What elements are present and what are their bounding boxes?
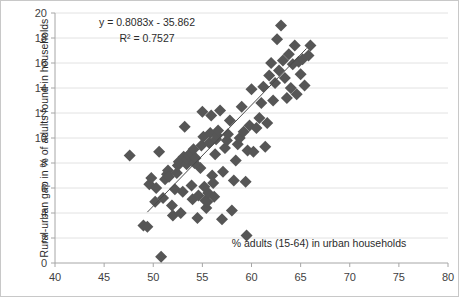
x-axis-tick-labels: 404550556065707580 bbox=[49, 271, 454, 283]
x-tick-label: 75 bbox=[393, 271, 405, 283]
x-tick-label: 60 bbox=[245, 271, 257, 283]
r-squared-label: R² = 0.7527 bbox=[119, 32, 174, 44]
x-axis-title: % adults (15-64) in urban households bbox=[232, 237, 407, 249]
y-tick-label: 0 bbox=[41, 257, 47, 269]
data-point-marker bbox=[209, 148, 221, 160]
x-tick-label: 55 bbox=[196, 271, 208, 283]
data-point-marker bbox=[191, 212, 203, 224]
data-points bbox=[124, 20, 317, 263]
data-point-marker bbox=[124, 150, 136, 162]
data-point-marker bbox=[271, 33, 283, 45]
data-point-marker bbox=[228, 175, 240, 187]
chart-canvas: 404550556065707580 02468101214161820 y =… bbox=[1, 1, 459, 297]
x-tick-label: 65 bbox=[295, 271, 307, 283]
data-point-marker bbox=[153, 146, 165, 158]
data-point-marker bbox=[217, 166, 229, 178]
data-point-marker bbox=[246, 83, 258, 95]
x-tick-label: 80 bbox=[442, 271, 454, 283]
data-point-marker bbox=[230, 155, 242, 167]
axis-ticks bbox=[51, 13, 448, 267]
data-point-marker bbox=[259, 141, 271, 153]
regression-equation-label: y = 0.8083x - 35.862 bbox=[99, 16, 195, 28]
data-point-marker bbox=[226, 205, 238, 217]
scatter-chart: 404550556065707580 02468101214161820 y =… bbox=[0, 0, 459, 297]
data-point-marker bbox=[299, 80, 311, 92]
data-point-marker bbox=[224, 115, 236, 127]
data-point-marker bbox=[289, 40, 301, 52]
x-tick-label: 40 bbox=[49, 271, 61, 283]
data-point-marker bbox=[166, 200, 178, 212]
data-point-marker bbox=[267, 95, 279, 107]
data-point-marker bbox=[281, 92, 293, 104]
x-tick-label: 45 bbox=[98, 271, 110, 283]
data-point-marker bbox=[304, 40, 316, 52]
data-point-marker bbox=[155, 251, 167, 263]
y-tick-label: 20 bbox=[35, 7, 47, 19]
data-point-marker bbox=[275, 20, 287, 32]
y-axis-title: Rural-urban gap in % of adults found in … bbox=[38, 19, 50, 258]
data-point-marker bbox=[265, 57, 277, 69]
data-point-marker bbox=[240, 176, 252, 188]
data-point-marker bbox=[295, 68, 307, 80]
x-tick-label: 70 bbox=[344, 271, 356, 283]
data-point-marker bbox=[257, 81, 269, 93]
data-point-marker bbox=[179, 121, 191, 133]
data-point-marker bbox=[216, 213, 228, 225]
data-point-marker bbox=[186, 180, 198, 192]
x-tick-label: 50 bbox=[147, 271, 159, 283]
